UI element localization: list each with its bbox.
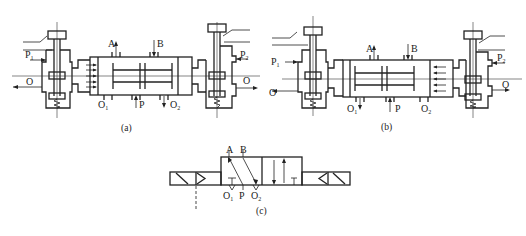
right-solenoid-symbol [302,172,350,185]
main-spool-body-a [86,40,192,108]
panel-b: A B O1 P O2 P1 P2 O O (b) [269,16,522,133]
symbol-port-p-label: P [239,190,245,201]
valve-figure: A B O1 P O2 P1 P2 O O (a) [0,0,526,236]
main-spool-body-b [343,44,453,112]
left-solenoid-symbol [170,172,221,210]
exhaust-right-label: O [243,75,250,86]
panel-c-labels: A B O1 P O2 (c) [223,144,267,217]
pilot-p1-label-b: P1 [271,56,280,68]
exhaust-left-label-b: O [269,87,276,98]
port-b-label: B [157,38,164,49]
port-o1-label-b: O1 [347,103,357,115]
panel-c-symbol: A B O1 P O2 (c) [170,144,350,217]
symbol-port-o1-label: O1 [223,190,233,202]
caption-c: (c) [256,206,267,217]
panel-a: A B O1 P O2 P1 P2 O O (a) [12,22,260,134]
exhaust-left-label: O [26,76,33,87]
port-o1-label: O1 [98,99,108,111]
pilot-p2-label-b: P2 [497,52,506,64]
port-o2-label-b: O2 [421,103,431,115]
panel-a-labels: A B O1 P O2 P1 P2 O O (a) [25,38,250,134]
pilot-pressure-arrows-b [433,66,446,93]
port-p-label: P [139,99,145,110]
port-a-label-b: A [366,43,374,54]
caption-b: (b) [381,122,392,133]
exhaust-right-label-b: O [502,79,509,90]
pilot-p1-label: P1 [25,49,34,61]
port-o2-label: O2 [170,99,180,111]
symbol-port-a-label: A [226,144,234,155]
right-pilot-valve-b [453,22,510,118]
symbol-port-b-label: B [240,144,247,155]
pilot-pressure-arrows-a [86,64,97,89]
port-b-label-b: B [411,43,418,54]
valve-body-symbol [221,150,302,190]
pilot-p2-label: P2 [240,49,249,61]
caption-a: (a) [121,123,132,134]
right-pilot-valve [192,22,258,118]
left-pilot-valve-b [272,16,522,116]
port-p-label-b: P [395,103,401,114]
port-a-label: A [108,38,116,49]
symbol-port-o2-label: O2 [251,190,261,202]
